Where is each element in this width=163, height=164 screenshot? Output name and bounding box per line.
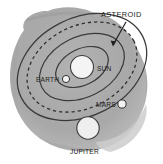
- solar-system-diagram: ASTEROID SUN EARTH MARS JUPITER: [0, 0, 163, 164]
- earth-body: [62, 75, 69, 82]
- earth-label: EARTH: [36, 76, 59, 83]
- jupiter-body: [77, 117, 99, 139]
- mars-body: [118, 100, 126, 108]
- asteroid-label: ASTEROID: [101, 10, 142, 19]
- mars-label: MARS: [96, 101, 116, 108]
- sun-label: SUN: [97, 65, 112, 72]
- diagram-canvas: ASTEROID SUN EARTH MARS JUPITER: [0, 0, 163, 164]
- jupiter-label: JUPITER: [70, 148, 99, 155]
- sun-body: [71, 56, 94, 79]
